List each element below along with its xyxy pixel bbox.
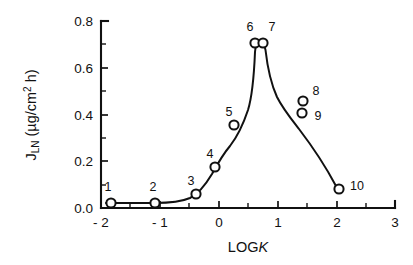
x-tick-label-3: 3 — [391, 215, 399, 230]
chart-figure: 0.8 0.6 0.4 0.2 0.0 - 2 - 1 0 1 2 3 — [0, 0, 413, 265]
svg-text:JLN (µg/cm2 h): JLN (µg/cm2 h) — [22, 69, 41, 160]
x-axis-title-plain: LOG — [228, 239, 259, 255]
data-point-8 — [298, 96, 307, 105]
data-point-label-9: 9 — [315, 109, 322, 123]
data-point-2 — [150, 198, 159, 207]
y-tick-label-0.4: 0.4 — [74, 108, 93, 123]
x-tick-label-2: 2 — [333, 215, 341, 230]
data-curve — [106, 43, 336, 203]
data-markers — [106, 38, 343, 207]
data-point-label-2: 2 — [150, 180, 157, 194]
data-point-9 — [297, 108, 306, 117]
y-axis-title-units-open: (µg/cm — [23, 92, 39, 141]
y-tick-label-0.2: 0.2 — [74, 154, 93, 169]
data-point-3 — [191, 189, 200, 198]
x-tick-label-1: 1 — [274, 215, 282, 230]
data-point-7 — [258, 38, 267, 47]
data-point-label-8: 8 — [313, 84, 320, 98]
data-point-label-4: 4 — [207, 147, 214, 161]
y-tick-label-0.8: 0.8 — [74, 14, 93, 29]
x-tick-labels: - 2 - 1 0 1 2 3 — [93, 215, 399, 230]
y-axis-title-symbol: J — [23, 153, 39, 160]
data-point-label-5: 5 — [226, 105, 233, 119]
x-tick-label-0: 0 — [215, 215, 223, 230]
x-tick-label-minus2: - 2 — [93, 215, 109, 230]
y-axis-title-subscript: LN — [30, 141, 41, 154]
data-point-5 — [229, 120, 238, 129]
data-point-1 — [106, 198, 115, 207]
x-axis-title: LOGK — [228, 239, 270, 255]
y-axis-title: JLN (µg/cm2 h) — [22, 69, 41, 160]
data-point-4 — [210, 162, 219, 171]
data-point-10 — [334, 184, 343, 193]
data-point-label-10: 10 — [350, 179, 364, 193]
x-tick-label-minus1: - 1 — [152, 215, 168, 230]
x-axis-title-italic: K — [258, 239, 269, 255]
y-axis-title-units-close: h) — [23, 69, 39, 86]
svg-text:LOGK: LOGK — [228, 239, 270, 255]
line-chart-canvas: 0.8 0.6 0.4 0.2 0.0 - 2 - 1 0 1 2 3 — [0, 0, 413, 265]
data-point-label-3: 3 — [188, 174, 195, 188]
data-point-label-7: 7 — [269, 20, 276, 34]
y-tick-labels: 0.8 0.6 0.4 0.2 0.0 — [74, 14, 93, 216]
data-point-label-6: 6 — [247, 20, 254, 34]
y-tick-label-0.6: 0.6 — [74, 61, 93, 76]
data-point-label-1: 1 — [105, 180, 112, 194]
y-tick-label-0.0: 0.0 — [74, 201, 93, 216]
